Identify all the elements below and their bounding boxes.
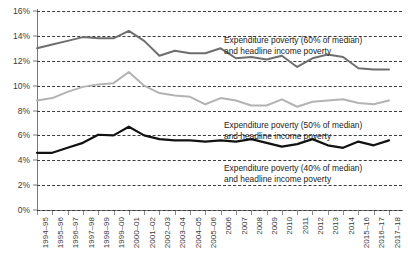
x-axis-tick-label: 2008 xyxy=(255,217,264,235)
x-axis-tick-label: 2004–05 xyxy=(194,217,203,248)
x-axis-tick-label: 1994–95 xyxy=(41,217,50,248)
x-axis-tick-label: 2011 xyxy=(301,217,310,234)
y-axis-tick-mark xyxy=(33,135,37,136)
annotation-40-line-2: and headline income poverty xyxy=(224,174,362,185)
y-axis-tick-mark xyxy=(33,160,37,161)
y-axis-tick-mark xyxy=(33,11,37,12)
x-axis-tick-mark xyxy=(343,211,344,215)
x-axis-tick-mark xyxy=(297,211,298,215)
x-axis-tick-mark xyxy=(205,211,206,215)
y-axis-tick-label: 12% xyxy=(13,56,30,66)
gridline xyxy=(37,210,402,211)
y-axis-tick-mark xyxy=(33,35,37,36)
x-axis-tick-mark xyxy=(175,211,176,215)
x-axis-tick-mark xyxy=(98,211,99,215)
y-axis-tick-label: 8% xyxy=(18,106,30,116)
annotation-60-percent: Expenditure poverty (60% of median) and … xyxy=(224,35,362,56)
x-axis-tick-label: 2002–03 xyxy=(163,217,172,248)
x-axis-tick-mark xyxy=(129,211,130,215)
annotation-50-percent: Expenditure poverty (50% of median) and … xyxy=(224,120,362,141)
x-axis-tick-label: 1999–00 xyxy=(117,217,126,248)
x-axis-tick-label: 2016–17 xyxy=(377,217,386,248)
annotation-50-line-1: Expenditure poverty (50% of median) xyxy=(224,120,362,131)
y-axis-tick-mark xyxy=(33,110,37,111)
x-axis-tick-label: 2007 xyxy=(240,217,249,235)
y-axis-tick-label: 0% xyxy=(18,205,30,215)
y-axis-tick-label: 10% xyxy=(13,81,30,91)
y-axis-tick-label: 2% xyxy=(18,180,30,190)
x-axis-tick-mark xyxy=(83,211,84,215)
x-axis-tick-mark xyxy=(251,211,252,215)
annotation-40-line-1: Expenditure poverty (40% of median) xyxy=(224,163,362,174)
x-axis-tick-label: 2012 xyxy=(316,217,325,235)
x-axis-tick-label: 2010 xyxy=(285,217,294,235)
y-axis-tick-label: 6% xyxy=(18,130,30,140)
y-axis-tick-mark xyxy=(33,85,37,86)
annotation-50-line-2: and headline income poverty xyxy=(224,131,362,142)
x-axis-tick-label: 1996–97 xyxy=(71,217,80,248)
x-axis-tick-label: 2014 xyxy=(347,217,356,235)
x-axis-tick-mark xyxy=(358,211,359,215)
x-axis-tick-label: 2006 xyxy=(224,217,233,235)
x-axis-tick-mark xyxy=(144,211,145,215)
x-axis-tick-label: 2001–02 xyxy=(148,217,157,248)
x-axis-tick-label: 2015–16 xyxy=(362,217,371,248)
x-axis-tick-label: 2005–06 xyxy=(209,217,218,248)
x-axis-tick-mark xyxy=(282,211,283,215)
series-line-1 xyxy=(37,72,389,107)
x-axis-tick-label: 1997–98 xyxy=(87,217,96,248)
x-axis-tick-mark xyxy=(267,211,268,215)
x-axis-tick-label: 2017–18 xyxy=(393,217,402,248)
y-axis-tick-mark xyxy=(33,60,37,61)
x-axis-tick-mark xyxy=(190,211,191,215)
annotation-60-line-1: Expenditure poverty (60% of median) xyxy=(224,35,362,46)
x-axis-tick-mark xyxy=(52,211,53,215)
annotation-60-line-2: and headline income poverty xyxy=(224,46,362,57)
x-axis-tick-mark xyxy=(389,211,390,215)
x-axis-tick-mark xyxy=(221,211,222,215)
x-axis-tick-mark xyxy=(312,211,313,215)
x-axis-tick-mark xyxy=(159,211,160,215)
x-axis-tick-mark xyxy=(37,211,38,215)
poverty-trend-line-chart: 0%2%4%6%8%10%12%14%16% 1994–951995–96199… xyxy=(0,0,408,264)
y-axis-tick-label: 14% xyxy=(13,31,30,41)
y-axis-tick-mark xyxy=(33,185,37,186)
x-axis-tick-label: 1998–99 xyxy=(102,217,111,248)
x-axis-tick-mark xyxy=(114,211,115,215)
x-axis-tick-mark xyxy=(68,211,69,215)
x-axis-tick-label: 2013 xyxy=(331,217,340,235)
x-axis-tick-mark xyxy=(236,211,237,215)
x-axis-tick-mark xyxy=(328,211,329,215)
y-axis-tick-label: 16% xyxy=(13,6,30,16)
y-axis-tick-label: 4% xyxy=(18,155,30,165)
x-axis-tick-label: 2003–04 xyxy=(178,217,187,248)
x-axis-tick-label: 2009 xyxy=(270,217,279,235)
x-axis-tick-label: 2000–01 xyxy=(132,217,141,248)
annotation-40-percent: Expenditure poverty (40% of median) and … xyxy=(224,163,362,184)
x-axis-tick-mark xyxy=(374,211,375,215)
x-axis-tick-label: 1995–96 xyxy=(56,217,65,248)
